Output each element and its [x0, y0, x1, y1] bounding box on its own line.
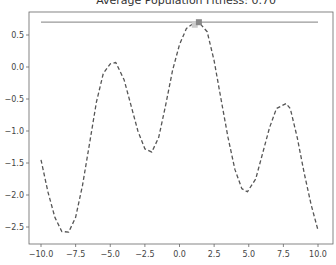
- x-tick-label: 7.5: [277, 250, 290, 259]
- x-tick-label: −2.5: [135, 250, 154, 259]
- y-tick-label: −1.5: [5, 159, 24, 168]
- population-marker: [196, 19, 202, 25]
- plot-frame: [29, 12, 333, 244]
- y-tick-label: −0.5: [5, 95, 24, 104]
- x-tick-label: −10.0: [29, 250, 54, 259]
- y-tick-label: −2.0: [5, 191, 24, 200]
- y-tick-label: −1.0: [5, 127, 24, 136]
- fitness-curve: [41, 22, 318, 232]
- line-chart: −10.0−7.5−5.0−2.50.02.55.07.510.00.50.0−…: [0, 0, 336, 265]
- x-tick-label: 5.0: [242, 250, 255, 259]
- x-tick-label: −7.5: [66, 250, 85, 259]
- x-tick-label: −5.0: [101, 250, 120, 259]
- y-tick-label: 0.0: [11, 63, 24, 72]
- y-tick-label: 0.5: [11, 31, 24, 40]
- x-tick-label: 10.0: [309, 250, 327, 259]
- x-tick-label: 0.0: [173, 250, 186, 259]
- x-tick-label: 2.5: [208, 250, 221, 259]
- y-tick-label: −2.5: [5, 223, 24, 232]
